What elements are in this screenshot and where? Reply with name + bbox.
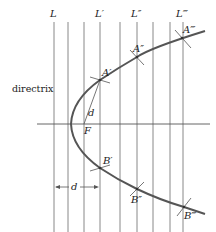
point-B2 [136, 188, 139, 191]
label-d-arrow: d [71, 181, 77, 192]
label-B1: B′ [102, 155, 113, 166]
label-L-triple-prime: L‴ [175, 8, 189, 19]
label-directrix: directrix [12, 83, 54, 94]
construction-ticks [90, 30, 191, 216]
label-A2: A″ [132, 43, 144, 54]
label-A3: A‴ [182, 24, 196, 35]
label-L-double-prime: L″ [130, 8, 142, 19]
label-L-prime: L′ [94, 8, 105, 19]
label-B3: B‴ [183, 210, 197, 221]
point-A2 [136, 56, 139, 59]
parabola-diagram: L L′ L″ L‴ directrix F d d A′ A″ A‴ B′ B… [0, 0, 216, 232]
point-A1 [99, 79, 102, 82]
label-focus: F [83, 125, 92, 136]
label-L: L [49, 8, 57, 19]
point-B1 [99, 167, 102, 170]
point-B3 [183, 206, 186, 209]
label-B2: B″ [130, 194, 142, 205]
label-d-segment: d [88, 107, 94, 118]
point-A3 [181, 37, 184, 40]
label-A1: A′ [101, 67, 112, 78]
